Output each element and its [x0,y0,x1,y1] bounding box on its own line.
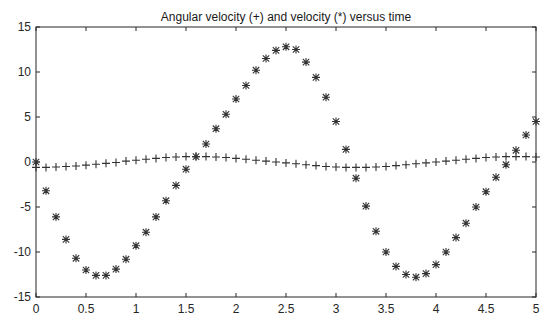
asterisk-marker [472,203,480,211]
asterisk-marker [252,66,260,74]
plus-marker [422,159,430,167]
plus-marker [472,154,480,162]
plus-marker [252,156,260,164]
plus-marker [342,163,350,171]
x-tick-label: 3.5 [378,302,395,316]
plus-marker [142,155,150,163]
asterisk-marker [102,271,110,279]
asterisk-marker [122,255,130,263]
asterisk-marker [262,55,270,63]
y-tick-label: -10 [14,245,32,259]
plus-marker [302,161,310,169]
asterisk-marker [442,248,450,256]
plus-marker [222,154,230,162]
asterisk-marker [132,242,140,250]
asterisk-marker [182,165,190,173]
plus-marker [102,159,110,167]
asterisk-marker [152,213,160,221]
asterisk-marker [192,153,200,161]
plus-marker [282,159,290,167]
data-series [32,43,540,281]
plus-marker [352,163,360,171]
plus-marker [432,158,440,166]
x-tick-label: 2 [233,302,240,316]
asterisk-marker [352,174,360,182]
plus-marker [492,153,500,161]
x-tick-label: 2.5 [278,302,295,316]
plus-marker [112,158,120,166]
x-tick-label: 0.5 [78,302,95,316]
asterisk-marker [92,271,100,279]
plus-marker [462,155,470,163]
asterisk-marker [232,95,240,103]
asterisk-marker [482,188,490,196]
asterisk-marker [462,219,470,227]
plus-marker [202,153,210,161]
plus-marker [182,153,190,161]
asterisk-marker [202,140,210,148]
asterisk-marker [302,58,310,66]
asterisk-marker [432,261,440,269]
y-tick-label: 10 [18,65,32,79]
plus-marker [322,163,330,171]
plus-marker [272,158,280,166]
asterisk-marker [532,118,540,126]
asterisk-marker [452,234,460,242]
asterisk-marker [492,173,500,181]
plus-marker [482,154,490,162]
asterisk-marker [242,82,250,90]
x-tick-label: 5 [533,302,540,316]
plus-marker [52,163,60,171]
plus-marker [392,162,400,170]
asterisk-marker [112,265,120,273]
asterisk-marker [162,197,170,205]
asterisk-marker [342,145,350,153]
asterisk-marker [42,187,50,195]
asterisk-marker [362,202,370,210]
y-tick-label: -5 [20,200,31,214]
asterisk-marker [322,93,330,101]
plus-marker [92,160,100,168]
angular-velocity-series [32,153,540,172]
asterisk-marker [72,254,80,262]
asterisk-marker [312,73,320,81]
plus-marker [442,157,450,165]
plus-marker [372,163,380,171]
plus-marker [62,163,70,171]
x-tick-label: 3 [333,302,340,316]
asterisk-marker [502,161,510,169]
plus-marker [162,154,170,162]
plus-marker [132,156,140,164]
x-tick-label: 0 [33,302,40,316]
plus-marker [42,163,50,171]
plus-marker [232,154,240,162]
y-tick-label: -15 [14,290,32,304]
plus-marker [402,161,410,169]
plus-marker [412,160,420,168]
plus-marker [152,154,160,162]
asterisk-marker [52,213,60,221]
plus-marker [82,161,90,169]
asterisk-marker [292,46,300,54]
asterisk-marker [32,158,40,166]
asterisk-marker [402,271,410,279]
asterisk-marker [212,125,220,133]
plus-marker [292,160,300,168]
plus-marker [122,157,130,165]
asterisk-marker [522,131,530,139]
asterisk-marker [272,46,280,54]
plus-marker [502,153,510,161]
plus-marker [262,157,270,165]
x-tick-label: 1 [133,302,140,316]
asterisk-marker [382,248,390,256]
plus-marker [172,153,180,161]
asterisk-marker [282,43,290,51]
plus-marker [312,162,320,170]
asterisk-marker [82,266,90,274]
asterisk-marker [372,227,380,235]
asterisk-marker [392,262,400,270]
asterisk-marker [222,110,230,118]
y-tick-label: 15 [18,20,32,34]
plus-marker [212,153,220,161]
plus-marker [362,163,370,171]
